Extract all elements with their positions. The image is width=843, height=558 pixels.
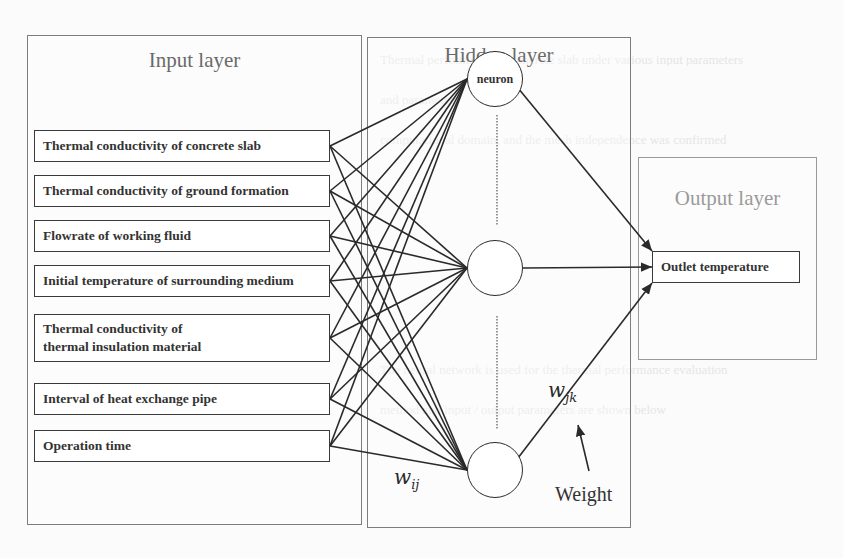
input-node-ground-conductivity: Thermal conductivity of ground formation: [34, 175, 330, 207]
weight-wjk-label: wjk: [548, 378, 577, 405]
input-node-label: Operation time: [43, 437, 131, 455]
input-node-operation-time: Operation time: [34, 430, 330, 462]
input-node-insulation-conductivity: Thermal conductivity of thermal insulati…: [34, 314, 330, 362]
input-node-label: Interval of heat exchange pipe: [43, 390, 217, 408]
input-node-label: Thermal conductivity of: [43, 320, 183, 338]
input-node-flowrate: Flowrate of working fluid: [34, 220, 330, 252]
output-layer-title: Output layer: [639, 186, 816, 211]
input-node-pipe-interval: Interval of heat exchange pipe: [34, 383, 330, 415]
input-node-concrete-conductivity: Thermal conductivity of concrete slab: [34, 130, 330, 162]
input-node-label: Thermal conductivity of concrete slab: [43, 137, 261, 155]
neuron-label: neuron: [477, 72, 513, 87]
hidden-neuron-bottom: [467, 442, 523, 498]
input-node-label: Flowrate of working fluid: [43, 227, 191, 245]
weight-annotation-label: Weight: [555, 483, 612, 506]
weight-wij-label: wij: [394, 465, 419, 492]
output-node-label: Outlet temperature: [661, 259, 769, 275]
hidden-neuron-middle: [467, 240, 523, 296]
input-node-label: Initial temperature of surrounding mediu…: [43, 272, 294, 290]
input-node-label: thermal insulation material: [43, 338, 201, 356]
input-node-initial-temperature: Initial temperature of surrounding mediu…: [34, 265, 330, 297]
input-node-label: Thermal conductivity of ground formation: [43, 182, 289, 200]
input-layer-title: Input layer: [28, 48, 361, 73]
hidden-neuron-top: neuron: [467, 51, 523, 107]
output-node-outlet-temperature: Outlet temperature: [652, 251, 800, 283]
